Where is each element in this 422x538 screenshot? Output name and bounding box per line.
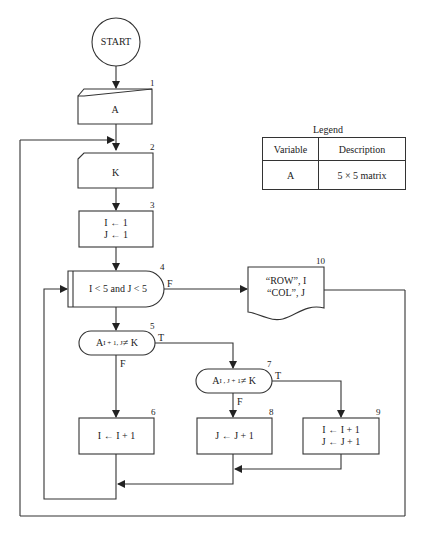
node-5-label: AI + 1, J ≠ K	[79, 331, 155, 355]
node-7-true-label: T	[275, 371, 281, 381]
node-number-9: 9	[376, 408, 381, 417]
legend-header-variable: Variable	[263, 138, 319, 161]
node-7-label: AI , J + 1 ≠ K	[196, 369, 272, 393]
flowchart-canvas	[0, 0, 422, 538]
legend-cell-variable: A	[263, 161, 319, 190]
node-9-line-2: J ← J + 1	[322, 436, 360, 449]
start-label: START	[92, 30, 140, 54]
legend-table: Variable Description A 5 × 5 matrix	[262, 137, 406, 190]
node-6-label: I ← I + 1	[79, 418, 154, 454]
node-9-line-1: I ← I + 1	[322, 424, 359, 437]
legend-cell-description: 5 × 5 matrix	[319, 161, 406, 190]
node-10-line-1: “ROW”, I	[266, 275, 307, 288]
node-7-sub: I , J + 1	[219, 377, 240, 386]
node-number-10: 10	[316, 257, 325, 266]
node-1-label: A	[78, 96, 152, 124]
node-10-label: “ROW”, I “COL”, J	[248, 269, 324, 305]
node-number-2: 2	[150, 143, 155, 152]
legend-header-description: Description	[319, 138, 406, 161]
node-10-line-2: “COL”, J	[267, 287, 305, 300]
node-8-label: J ← J + 1	[197, 418, 272, 454]
node-number-3: 3	[150, 201, 155, 210]
node-3-line-1: I ← 1	[104, 217, 127, 230]
node-number-6: 6	[151, 408, 156, 417]
node-5-rest: ≠ K	[123, 337, 138, 350]
node-2-label: K	[78, 159, 153, 188]
node-7-false-label: F	[237, 397, 243, 407]
node-number-4: 4	[160, 263, 165, 272]
node-9-label: I ← I + 1 J ← J + 1	[303, 418, 379, 454]
node-4-false-label: F	[167, 279, 173, 289]
legend-header-row: Variable Description	[263, 138, 406, 161]
legend-title: Legend	[313, 124, 343, 135]
node-5-sub: I + 1, J	[103, 339, 123, 348]
node-5-main: A	[96, 337, 103, 350]
node-3-line-2: J ← 1	[104, 229, 128, 242]
node-3-label: I ← 1 J ← 1	[79, 211, 153, 247]
legend-row: A 5 × 5 matrix	[263, 161, 406, 190]
node-7-rest: ≠ K	[241, 375, 256, 388]
node-number-5: 5	[150, 322, 155, 331]
node-number-1: 1	[150, 79, 155, 88]
node-4-label: I < 5 and J < 5	[74, 271, 162, 307]
node-5-false-label: F	[120, 359, 126, 369]
node-7-main: A	[212, 375, 219, 388]
node-5-true-label: T	[158, 333, 164, 343]
node-number-7: 7	[267, 360, 272, 369]
node-number-8: 8	[269, 408, 274, 417]
